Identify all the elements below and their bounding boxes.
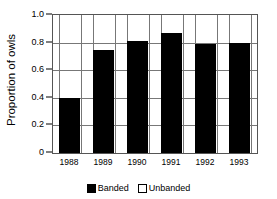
legend-item-unbanded: Unbanded [138, 183, 191, 193]
bar-1988 [59, 98, 80, 153]
y-axis-tick-label: 0.4 [31, 92, 44, 102]
vertical-gridline [115, 15, 116, 153]
vertical-gridline [149, 15, 150, 153]
bar-chart-figure: Proportion of owls 00.20.40.60.81.0 1988… [0, 0, 277, 199]
x-axis-tick-label-1989: 1989 [94, 157, 113, 167]
legend-label: Unbanded [149, 183, 191, 193]
vertical-gridline [217, 15, 218, 153]
y-axis-tick-label: 0 [39, 147, 44, 157]
vertical-gridline [81, 15, 82, 153]
bar-1990 [127, 41, 148, 153]
chart-legend: BandedUnbanded [0, 181, 277, 195]
vertical-gridline [251, 15, 252, 153]
x-axis-tick-label-1991: 1991 [162, 157, 181, 167]
plot-area [52, 14, 258, 154]
y-axis-tick-label: 0.2 [31, 119, 44, 129]
horizontal-gridline [53, 70, 257, 71]
x-axis-tick-label-1992: 1992 [196, 157, 215, 167]
bar-1991 [161, 33, 182, 153]
horizontal-gridline [53, 98, 257, 99]
vertical-gridline [183, 15, 184, 153]
y-axis-tick-label: 1.0 [31, 9, 44, 19]
legend-item-banded: Banded [87, 183, 129, 193]
y-axis-tick-label: 0.8 [31, 37, 44, 47]
legend-swatch-icon [87, 184, 96, 193]
horizontal-gridline [53, 125, 257, 126]
horizontal-gridline [53, 43, 257, 44]
bar-1992 [195, 44, 216, 153]
legend-label: Banded [98, 183, 129, 193]
x-axis-tick-label-1990: 1990 [128, 157, 147, 167]
x-axis-tick-labels: 198819891990199119921993 [52, 157, 258, 171]
x-axis-tick-label-1993: 1993 [230, 157, 249, 167]
x-axis-tick-label-1988: 1988 [60, 157, 79, 167]
bar-1993 [229, 43, 250, 153]
bar-1989 [93, 50, 114, 154]
legend-swatch-icon [138, 184, 147, 193]
y-axis-title-text: Proportion of owls [5, 34, 17, 126]
y-axis-tick-labels: 00.20.40.60.81.0 [18, 14, 44, 154]
y-axis-tick-label: 0.6 [31, 64, 44, 74]
